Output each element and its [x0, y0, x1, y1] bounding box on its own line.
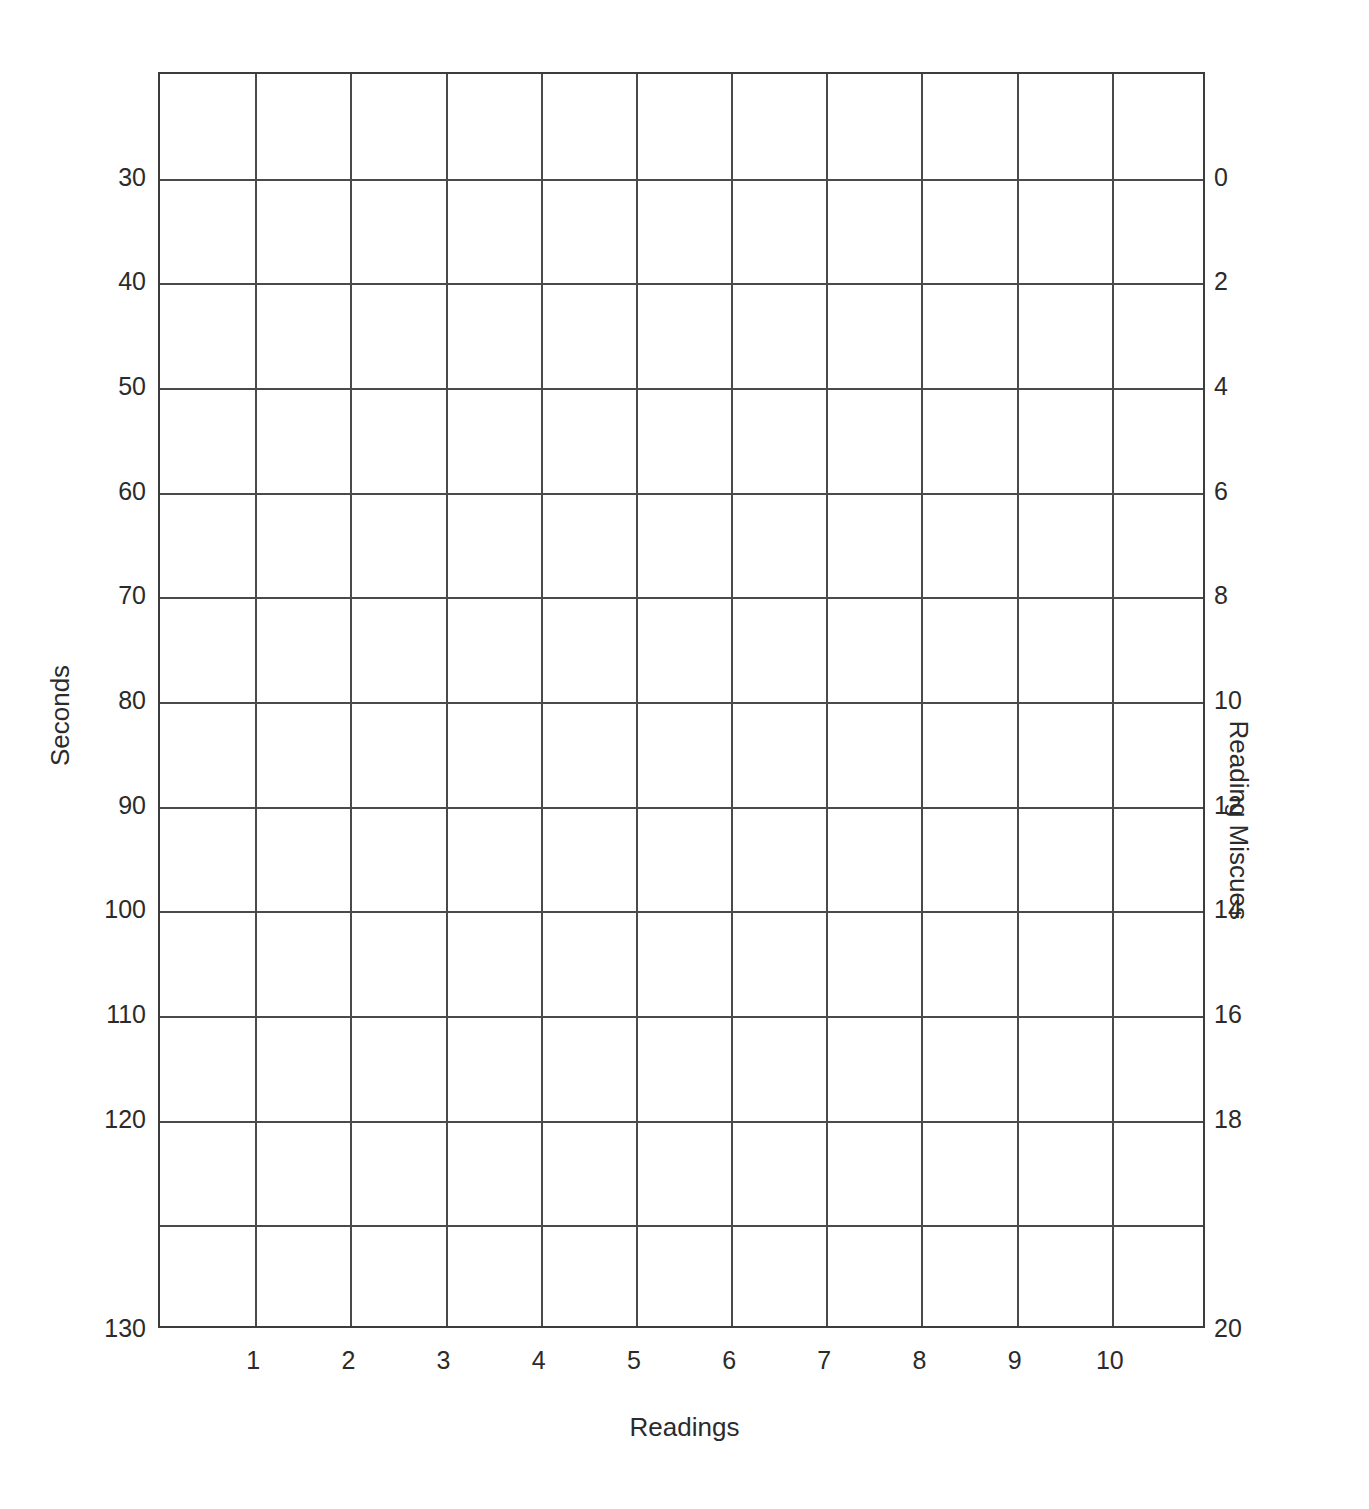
grid-line-vertical [350, 74, 352, 1326]
y-axis-tick-label: 50 [12, 374, 146, 399]
x-axis-tick-label: 2 [341, 1348, 355, 1373]
grid-line-vertical [1112, 74, 1114, 1326]
y2-axis-tick-label: 18 [1214, 1106, 1242, 1131]
plot-area [158, 72, 1205, 1328]
y2-axis-tick-label: 6 [1214, 478, 1228, 503]
y-axis-tick-label: 110 [12, 1002, 146, 1027]
grid-line-vertical [636, 74, 638, 1326]
grid-line-vertical [255, 74, 257, 1326]
y-axis-tick-label: 40 [12, 269, 146, 294]
grid-line-horizontal [160, 807, 1203, 809]
grid-line-vertical [921, 74, 923, 1326]
grid-line-horizontal [160, 1225, 1203, 1227]
x-axis-title-readings: Readings [0, 1412, 1369, 1443]
y2-axis-tick-label: 2 [1214, 269, 1228, 294]
reading-fluency-chart: 30405060708090100110120130 0246810121416… [0, 0, 1369, 1509]
y-axis-tick-label: 100 [12, 897, 146, 922]
x-axis-tick-label: 4 [532, 1348, 546, 1373]
grid-line-horizontal [160, 911, 1203, 913]
grid-line-horizontal [160, 283, 1203, 285]
grid-line-vertical [541, 74, 543, 1326]
grid-line-horizontal [160, 1016, 1203, 1018]
y-axis-tick-label: 90 [12, 792, 146, 817]
y-axis-tick-label: 60 [12, 478, 146, 503]
y-axis-tick-label: 120 [12, 1106, 146, 1131]
grid-line-vertical [446, 74, 448, 1326]
bottom-axis-tick-labels: 12345678910 [158, 1348, 1205, 1388]
grid-line-horizontal [160, 702, 1203, 704]
grid-line-vertical [731, 74, 733, 1326]
grid-line-horizontal [160, 493, 1203, 495]
y-axis-title-seconds: Seconds [45, 656, 76, 776]
x-axis-tick-label: 6 [722, 1348, 736, 1373]
x-axis-tick-label: 7 [817, 1348, 831, 1373]
y2-axis-tick-label: 4 [1214, 374, 1228, 399]
grid-line-horizontal [160, 388, 1203, 390]
grid-line-horizontal [160, 597, 1203, 599]
x-axis-tick-label: 8 [913, 1348, 927, 1373]
y2-axis-tick-label: 8 [1214, 583, 1228, 608]
y-axis-tick-label: 80 [12, 688, 146, 713]
y2-axis-title-reading-miscues: Reading Miscues [1223, 631, 1254, 901]
x-axis-tick-label: 9 [1008, 1348, 1022, 1373]
y-axis-tick-label: 130 [12, 1316, 146, 1341]
x-axis-tick-label: 10 [1096, 1348, 1124, 1373]
x-axis-tick-label: 3 [437, 1348, 451, 1373]
x-axis-tick-label: 1 [246, 1348, 260, 1373]
y2-axis-tick-label: 20 [1214, 1316, 1242, 1341]
grid-line-horizontal [160, 179, 1203, 181]
x-axis-tick-label: 5 [627, 1348, 641, 1373]
y-axis-tick-label: 70 [12, 583, 146, 608]
y2-axis-tick-label: 16 [1214, 1002, 1242, 1027]
y-axis-tick-label: 30 [12, 164, 146, 189]
grid-line-vertical [1017, 74, 1019, 1326]
grid-line-vertical [826, 74, 828, 1326]
grid-line-horizontal [160, 1121, 1203, 1123]
y2-axis-tick-label: 0 [1214, 164, 1228, 189]
